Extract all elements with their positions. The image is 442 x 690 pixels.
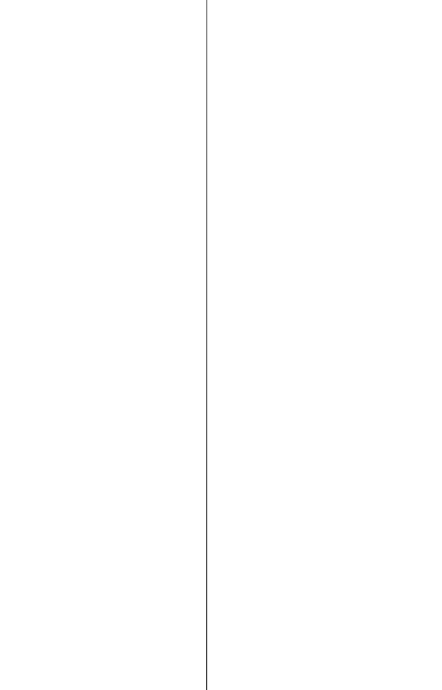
right-pane bbox=[208, 0, 442, 690]
left-pane bbox=[0, 0, 206, 690]
